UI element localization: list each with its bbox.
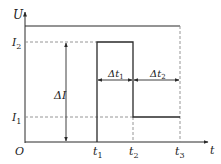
origin-label: O [15,145,24,158]
i1-label: I1 [11,111,21,126]
delta-t1-label: Δt1 [107,68,124,81]
t3-label: t3 [175,145,185,160]
y-axis-label: U [13,8,24,22]
t2-label: t2 [129,145,139,160]
x-axis-label: t [210,144,215,157]
i2-label: I2 [11,36,21,51]
current-pulse-diagram: U t O I2 I1 ΔI Δt1 [0,0,221,164]
x-axis: t [25,142,215,157]
delta-i-label: ΔI [53,89,67,102]
current-waveform [97,42,180,142]
t1-label: t1 [93,145,103,160]
delta-t2-label: Δt2 [149,68,166,81]
dashed-guides [25,26,180,142]
